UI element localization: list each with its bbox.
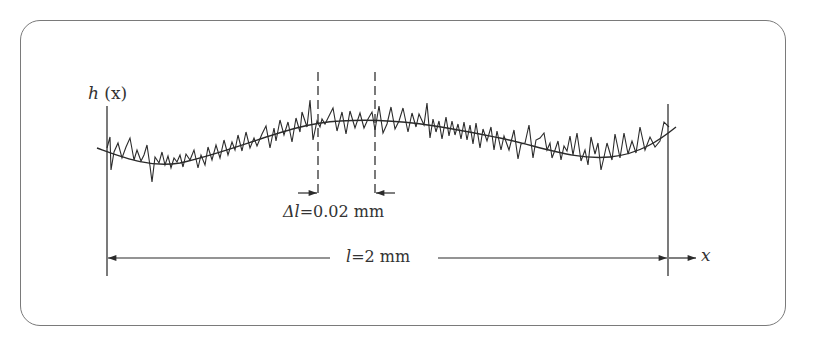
l-value: =2 mm [351,247,410,266]
delta-l-symbol: Δl [283,202,300,221]
y-axis-label: h (x) [88,83,127,103]
delta-l-value: =0.02 mm [300,202,384,221]
h-function-symbol: h [88,83,99,103]
rough-profile-line [107,100,669,182]
roughness-profile-diagram [0,0,818,346]
sampling-interval-label: Δl=0.02 mm [283,202,384,221]
length-label: l=2 mm [338,247,418,266]
h-function-argument: (x) [104,83,127,103]
x-axis-label: x [701,245,711,265]
